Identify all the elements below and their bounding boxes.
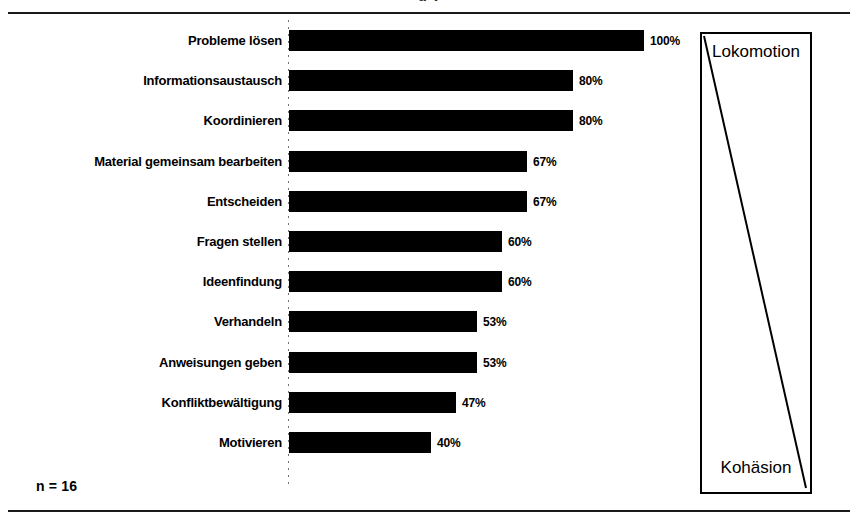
frame-rule-top bbox=[8, 12, 850, 14]
bar bbox=[289, 191, 527, 212]
bar bbox=[289, 151, 527, 172]
bar-category-label: Informationsaustausch bbox=[143, 70, 282, 92]
bar-category-label: Anweisungen geben bbox=[159, 352, 282, 374]
bar-row: Verhandeln53% bbox=[0, 311, 700, 333]
bar-row: Ideenfindung60% bbox=[0, 271, 700, 293]
continuum-label-kohaesion: Kohäsion bbox=[702, 458, 810, 478]
bar-value-label: 60% bbox=[508, 273, 531, 291]
bar-value-label: 100% bbox=[650, 32, 680, 50]
bar bbox=[289, 30, 644, 51]
bar-row: Informationsaustausch80% bbox=[0, 70, 700, 92]
bar bbox=[289, 271, 502, 292]
bar bbox=[289, 352, 477, 373]
clipped-heading-remnant: g y bbox=[0, 0, 858, 1]
bar-category-label: Probleme lösen bbox=[188, 30, 282, 52]
bar-value-label: 80% bbox=[579, 72, 602, 90]
bar-row: Probleme lösen100% bbox=[0, 30, 700, 52]
bar-row: Fragen stellen60% bbox=[0, 231, 700, 253]
bar-value-label: 47% bbox=[462, 394, 485, 412]
bar-category-label: Fragen stellen bbox=[197, 231, 282, 253]
bar-chart-plot-area: Probleme lösen100%Informationsaustausch8… bbox=[0, 18, 700, 498]
bar-value-label: 67% bbox=[533, 193, 556, 211]
bar-category-label: Motivieren bbox=[219, 432, 282, 454]
bar-value-label: 53% bbox=[483, 354, 506, 372]
sample-size-note: n = 16 bbox=[36, 478, 77, 494]
continuum-box: Lokomotion Kohäsion bbox=[700, 32, 812, 494]
bar bbox=[289, 432, 431, 453]
bar-row: Material gemeinsam bearbeiten67% bbox=[0, 151, 700, 173]
bar bbox=[289, 311, 477, 332]
bar-category-label: Koordinieren bbox=[204, 110, 283, 132]
bar-row: Koordinieren80% bbox=[0, 110, 700, 132]
bar-row: Motivieren40% bbox=[0, 432, 700, 454]
figure-canvas: g y Probleme lösen100%Informationsaustau… bbox=[0, 0, 858, 520]
bar-value-label: 80% bbox=[579, 112, 602, 130]
bar-row: Anweisungen geben53% bbox=[0, 352, 700, 374]
bar-category-label: Entscheiden bbox=[207, 191, 282, 213]
continuum-label-lokomotion: Lokomotion bbox=[702, 42, 810, 62]
bar-category-label: Konfliktbewältigung bbox=[162, 392, 282, 414]
bar-category-label: Ideenfindung bbox=[203, 271, 282, 293]
bar-value-label: 60% bbox=[508, 233, 531, 251]
frame-rule-bottom bbox=[8, 510, 850, 512]
bar-value-label: 67% bbox=[533, 153, 556, 171]
bar bbox=[289, 110, 573, 131]
bar-category-label: Material gemeinsam bearbeiten bbox=[94, 151, 282, 173]
bar bbox=[289, 231, 502, 252]
bar-row: Entscheiden67% bbox=[0, 191, 700, 213]
bar-value-label: 40% bbox=[437, 434, 460, 452]
bar-row: Konfliktbewältigung47% bbox=[0, 392, 700, 414]
bar bbox=[289, 70, 573, 91]
bar bbox=[289, 392, 456, 413]
bar-category-label: Verhandeln bbox=[214, 311, 282, 333]
bar-value-label: 53% bbox=[483, 313, 506, 331]
diagonal-gradient-line bbox=[702, 34, 810, 492]
